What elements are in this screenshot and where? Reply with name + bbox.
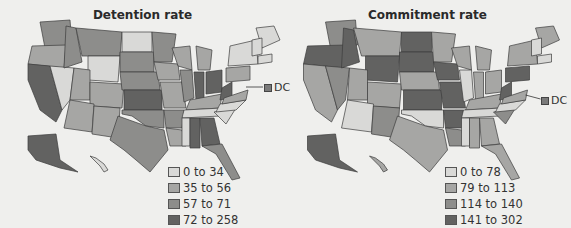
legend-swatch bbox=[445, 167, 457, 177]
legend-swatch bbox=[445, 199, 457, 209]
legend-item: 79 to 113 bbox=[445, 180, 523, 196]
legend-swatch bbox=[445, 215, 457, 225]
legend-label: 35 to 56 bbox=[183, 181, 231, 195]
dc-label: DC bbox=[551, 94, 567, 107]
legend-label: 79 to 113 bbox=[460, 181, 515, 195]
legend-item: 35 to 56 bbox=[168, 180, 238, 196]
legend-item: 57 to 71 bbox=[168, 196, 238, 212]
legend-item: 114 to 140 bbox=[445, 196, 523, 212]
legend-item: 72 to 258 bbox=[168, 212, 238, 228]
commitment-map-panel: Commitment rate bbox=[285, 0, 570, 228]
legend-swatch bbox=[168, 167, 180, 177]
legend-swatch bbox=[168, 215, 180, 225]
dc-swatch bbox=[541, 97, 549, 105]
legend-label: 114 to 140 bbox=[460, 197, 523, 211]
legend-swatch bbox=[168, 183, 180, 193]
us-map-detention bbox=[0, 0, 285, 228]
detention-map-panel: Detention rate bbox=[0, 0, 285, 228]
legend-item: 0 to 78 bbox=[445, 164, 523, 180]
us-map-commitment bbox=[285, 0, 571, 228]
legend-label: 57 to 71 bbox=[183, 197, 231, 211]
detention-legend: 0 to 34 35 to 56 57 to 71 72 to 258 bbox=[168, 164, 238, 228]
commitment-legend: 0 to 78 79 to 113 114 to 140 141 to 302 bbox=[445, 164, 523, 228]
dc-swatch bbox=[264, 84, 272, 92]
legend-label: 0 to 34 bbox=[183, 165, 224, 179]
legend-swatch bbox=[445, 183, 457, 193]
legend-item: 0 to 34 bbox=[168, 164, 238, 180]
legend-swatch bbox=[168, 199, 180, 209]
legend-item: 141 to 302 bbox=[445, 212, 523, 228]
legend-label: 0 to 78 bbox=[460, 165, 501, 179]
legend-label: 141 to 302 bbox=[460, 213, 523, 227]
dc-marker: DC bbox=[541, 94, 567, 107]
legend-label: 72 to 258 bbox=[183, 213, 238, 227]
